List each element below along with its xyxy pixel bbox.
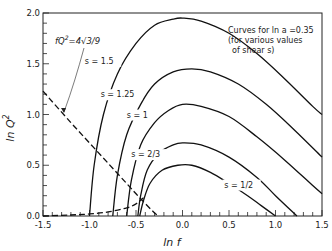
x-tick-label: 0.5	[222, 220, 236, 230]
series-curve	[90, 18, 323, 216]
legend-line-3: of shear s)	[232, 46, 274, 55]
series-curve	[113, 69, 322, 216]
y-tick-label: 0.5	[26, 160, 40, 170]
legend-line-1: Curves for ln a =0.35	[228, 26, 314, 35]
curve-label: s = 2/3	[131, 150, 160, 159]
dashed-curve-label: fQ2=4√3/9	[55, 34, 100, 46]
legend-line-2: (for various values	[228, 36, 303, 45]
x-tick-label: 1.5	[315, 220, 329, 230]
curve-label: s = 1.5	[85, 57, 114, 66]
y-axis-label: ln Q2	[2, 114, 17, 141]
x-tick-label: -0.5	[128, 220, 145, 230]
curve-label: s = 1/2	[224, 181, 253, 190]
x-tick-label: 1.0	[269, 220, 283, 230]
y-tick-label: 1.0	[26, 110, 40, 120]
curves	[43, 18, 322, 216]
x-tick-label: -1.5	[35, 220, 52, 230]
y-tick-label: 0.0	[26, 211, 40, 221]
curve-label: s = 1.25	[101, 90, 135, 99]
y-tick-label: 1.5	[26, 59, 40, 69]
dashed-curve-pointer	[64, 48, 84, 112]
x-tick-label: -1.0	[81, 220, 98, 230]
curve-label: s = 1	[127, 111, 148, 120]
curve-labels: s = 1.5s = 1.25s = 1s = 2/3s = 1/2	[83, 56, 261, 191]
x-axis-label: ln f	[163, 236, 183, 249]
y-tick-label: 2.0	[26, 8, 40, 18]
x-tick-label: 0.0	[176, 220, 190, 230]
chart: -1.5-1.0-0.50.00.51.01.50.00.51.01.52.0 …	[0, 0, 332, 251]
